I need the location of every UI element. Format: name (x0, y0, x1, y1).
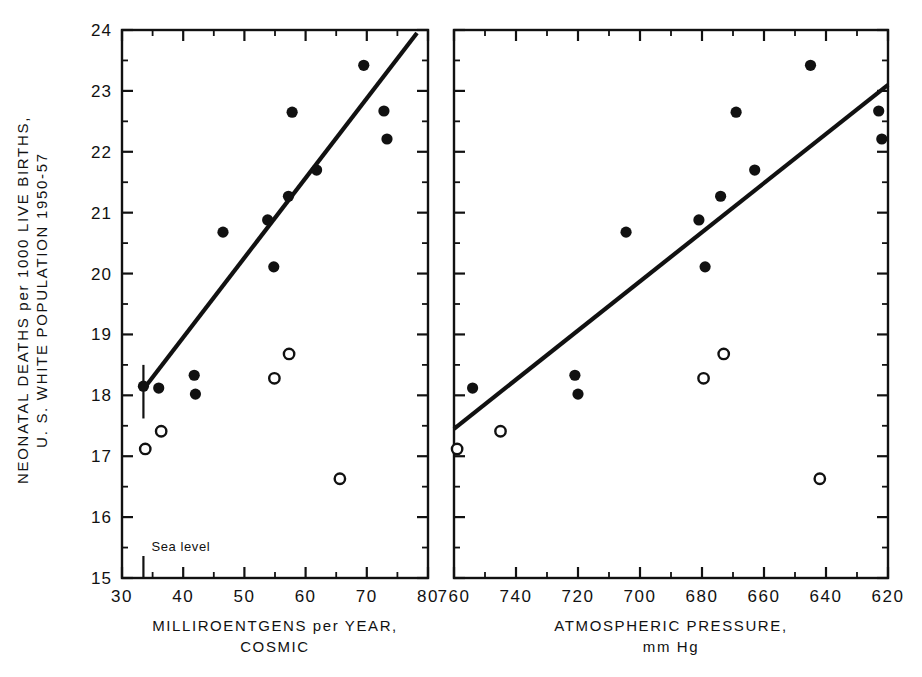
data-point-filled (190, 389, 201, 400)
data-point-open (815, 474, 825, 484)
data-point-filled (283, 191, 294, 202)
y-tick-label: 17 (91, 447, 112, 466)
x-tick-label: 680 (686, 587, 719, 606)
data-point-filled (378, 105, 389, 116)
data-point-filled (715, 191, 726, 202)
y-tick-label: 24 (91, 21, 112, 40)
data-point-filled (693, 214, 704, 225)
x-tick-label: 660 (748, 587, 781, 606)
x-tick-label: 40 (172, 587, 194, 606)
x-tick-label: 70 (356, 587, 378, 606)
data-point-filled (467, 382, 478, 393)
y-tick-label: 23 (91, 82, 112, 101)
x-tick-label: 700 (624, 587, 657, 606)
data-point-open (156, 426, 166, 436)
data-point-filled (311, 164, 322, 175)
x-tick-label: 50 (233, 587, 255, 606)
x-tick-label: 640 (810, 587, 843, 606)
y-tick-label: 20 (91, 265, 112, 284)
data-point-filled (873, 105, 884, 116)
x-axis-label-line1: MILLIROENTGENS per YEAR, (152, 617, 398, 634)
data-point-filled (620, 227, 631, 238)
data-point-filled (569, 370, 580, 381)
x-tick-label: 720 (562, 587, 595, 606)
data-point-filled (138, 381, 149, 392)
data-point-open (719, 349, 729, 359)
data-point-filled (189, 370, 200, 381)
data-point-filled (805, 60, 816, 71)
scatter-figure: NEONATAL DEATHS per 1000 LIVE BIRTHS, U.… (0, 0, 922, 677)
figure-container: NEONATAL DEATHS per 1000 LIVE BIRTHS, U.… (0, 0, 922, 677)
y-axis-label-line2: U. S. WHITE POPULATION 1950-57 (33, 152, 50, 448)
data-point-open (284, 349, 294, 359)
data-point-open (140, 444, 150, 454)
data-point-filled (217, 227, 228, 238)
data-point-open (452, 444, 462, 454)
data-point-filled (700, 261, 711, 272)
data-point-open (698, 373, 708, 383)
x-axis-label-line1: ATMOSPHERIC PRESSURE, (554, 617, 787, 634)
figure-background (0, 0, 922, 677)
data-point-filled (572, 389, 583, 400)
y-tick-label: 18 (91, 386, 112, 405)
data-point-filled (358, 60, 369, 71)
data-point-open (335, 474, 345, 484)
sea-level-annotation: Sea level (151, 539, 210, 554)
data-point-filled (876, 133, 887, 144)
x-axis-label-line2: mm Hg (643, 638, 699, 655)
y-tick-label: 16 (91, 508, 112, 527)
x-axis-label-line2: COSMIC (240, 638, 310, 655)
x-tick-label: 30 (111, 587, 133, 606)
data-point-open (269, 373, 279, 383)
data-point-filled (749, 164, 760, 175)
y-tick-label: 22 (91, 143, 112, 162)
x-tick-label: 740 (500, 587, 533, 606)
data-point-filled (287, 107, 298, 118)
data-point-filled (153, 382, 164, 393)
data-point-filled (262, 214, 273, 225)
y-tick-label: 19 (91, 325, 112, 344)
x-tick-label: 620 (872, 587, 905, 606)
y-axis-label-line1: NEONATAL DEATHS per 1000 LIVE BIRTHS, (14, 116, 31, 484)
y-tick-label: 15 (91, 569, 112, 588)
x-tick-label: 760 (438, 587, 471, 606)
data-point-filled (731, 107, 742, 118)
data-point-open (495, 426, 505, 436)
x-tick-label: 80 (417, 587, 439, 606)
data-point-filled (268, 261, 279, 272)
x-tick-label: 60 (295, 587, 317, 606)
y-tick-label: 21 (91, 204, 112, 223)
data-point-filled (381, 133, 392, 144)
